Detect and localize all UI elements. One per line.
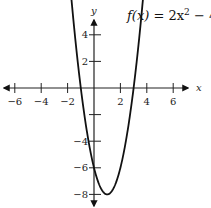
- x-tick-label: −6: [7, 96, 22, 107]
- y-tick-label: −8: [73, 189, 88, 200]
- y-tick-label: 2: [82, 56, 88, 67]
- y-tick-label: −6: [73, 162, 88, 173]
- x-tick-label: 6: [170, 96, 176, 107]
- x-tick-label: 2: [117, 96, 123, 107]
- chart: −6−4−224642−4−6−8 x y f(x) = 2x2 − 4x −: [0, 0, 211, 208]
- y-tick-label: 4: [82, 29, 88, 40]
- function-equation: f(x) = 2x2 − 4x −: [126, 7, 211, 23]
- x-tick-label: −2: [60, 96, 75, 107]
- y-axis-label: y: [90, 5, 97, 16]
- y-tick-label: −4: [73, 136, 88, 147]
- x-axis-label: x: [196, 82, 202, 93]
- x-tick-label: 4: [144, 96, 150, 107]
- x-tick-label: −4: [34, 96, 49, 107]
